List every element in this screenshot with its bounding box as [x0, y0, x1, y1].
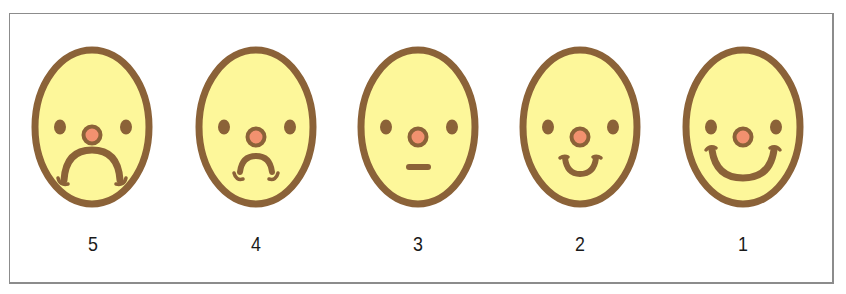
face-1-label: 1: [726, 232, 760, 256]
face-4-label: 4: [239, 232, 273, 256]
face-3-label: 3: [401, 232, 435, 256]
face-3-neutral-icon: [361, 50, 475, 204]
face-2-happy-icon: [523, 50, 637, 204]
face-1-very-happy-icon: [686, 50, 800, 204]
face-5-very-sad-icon: [35, 50, 149, 204]
face-2-label: 2: [563, 232, 597, 256]
face-4-sad-icon: [199, 50, 313, 204]
face-5-label: 5: [76, 232, 110, 256]
